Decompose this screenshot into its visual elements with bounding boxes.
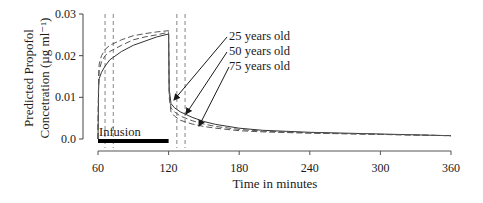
x-tick-label: 60	[92, 161, 104, 175]
infusion-bar	[98, 139, 169, 143]
arrow-icon-25	[174, 37, 227, 100]
y-tick-label: 0.01	[55, 90, 76, 104]
arrow-icon-75	[199, 67, 229, 126]
x-tick-label: 300	[371, 161, 389, 175]
y-tick-label: 0.03	[55, 7, 76, 21]
legend-label-25: 25 years old	[229, 29, 291, 43]
legend-label-50: 50 years old	[229, 44, 291, 58]
x-axis-title: Time in minutes	[233, 176, 318, 191]
infusion-annotation: Infusion	[98, 125, 169, 143]
x-tick-label: 360	[442, 161, 460, 175]
x-axis: 60120180240300360	[92, 151, 460, 175]
y-axis-title-line2: Concetration (µg ml⁻¹)	[37, 18, 52, 139]
infusion-label: Infusion	[99, 125, 141, 139]
y-axis: 0.00.010.020.03	[55, 7, 83, 146]
y-tick-label: 0.02	[55, 49, 76, 63]
y-tick-label: 0.0	[61, 132, 76, 146]
y-axis-title: Predicted Propofol Concetration (µg ml⁻¹…	[21, 18, 52, 139]
y-axis-title-line1: Predicted Propofol	[21, 29, 36, 127]
x-tick-label: 180	[230, 161, 248, 175]
x-tick-label: 120	[160, 161, 178, 175]
x-tick-label: 240	[301, 161, 319, 175]
legend: 25 years old 50 years old 75 years old	[174, 29, 291, 126]
propofol-concentration-chart: Predicted Propofol Concetration (µg ml⁻¹…	[0, 0, 483, 203]
legend-label-75: 75 years old	[229, 59, 291, 73]
